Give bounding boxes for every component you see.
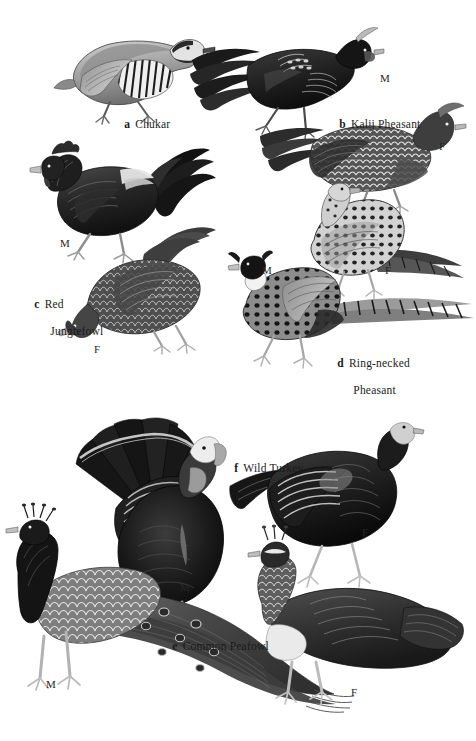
caption-key-e: e bbox=[172, 640, 177, 652]
caption-chukar: aChukar bbox=[112, 104, 170, 145]
sex-marker-peafowl-male: M bbox=[46, 678, 56, 690]
caption-red-junglefowl: cRed Junglefowl bbox=[22, 284, 103, 352]
caption-wild-turkey: fWild Turkey bbox=[222, 448, 304, 489]
caption-key-a: a bbox=[124, 118, 130, 130]
caption-ring-necked-pheasant: dRing-necked Pheasant bbox=[325, 343, 410, 411]
sex-marker-kalij-male: M bbox=[380, 72, 390, 84]
sex-marker-ring-necked-male: M bbox=[262, 264, 272, 276]
sex-marker-ring-necked-female: F bbox=[385, 264, 391, 276]
caption-name-ring-necked-pheasant-line1: Ring-necked bbox=[349, 357, 410, 369]
sex-marker-turkey-male: M bbox=[180, 581, 190, 593]
caption-name-wild-turkey: Wild Turkey bbox=[243, 462, 303, 474]
caption-name-chukar: Chukar bbox=[135, 118, 170, 130]
caption-name-red-junglefowl-line1: Red bbox=[45, 298, 64, 310]
caption-name-kalij-pheasant: Kalij Pheasant bbox=[351, 118, 421, 130]
caption-name-common-peafowl: Common Peafowl bbox=[183, 640, 269, 652]
caption-name-ring-necked-pheasant-line2: Pheasant bbox=[353, 384, 395, 396]
caption-name-red-junglefowl-line2: Junglefowl bbox=[50, 325, 103, 337]
sex-marker-turkey-female: F bbox=[362, 526, 368, 538]
sex-marker-junglefowl-male: M bbox=[60, 237, 70, 249]
gamebirds-plate: aChukar bKalij Pheasant cRed Junglefowl … bbox=[0, 0, 476, 741]
caption-key-f: f bbox=[234, 462, 238, 474]
caption-kalij-pheasant: bKalij Pheasant bbox=[327, 104, 420, 145]
sex-marker-kalij-female: F bbox=[439, 140, 445, 152]
caption-common-peafowl: eCommon Peafowl bbox=[160, 626, 269, 667]
sex-marker-junglefowl-female: F bbox=[94, 343, 100, 355]
sex-marker-peafowl-female: F bbox=[351, 686, 357, 698]
caption-key-c: c bbox=[34, 298, 39, 310]
caption-key-d: d bbox=[337, 357, 344, 369]
caption-key-b: b bbox=[339, 118, 346, 130]
